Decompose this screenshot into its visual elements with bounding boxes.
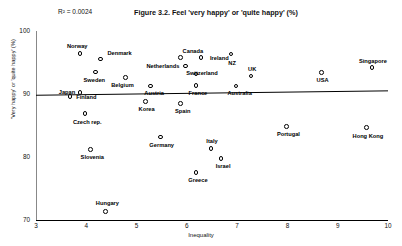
data-point-label: Japan xyxy=(59,89,75,95)
data-point-label: Canada xyxy=(183,48,204,54)
x-tick-label: 10 xyxy=(378,222,398,229)
x-tick-label: 3 xyxy=(26,222,46,229)
data-point-label: Australia xyxy=(227,90,251,96)
data-point-label: Greece xyxy=(188,177,207,183)
data-point-marker xyxy=(143,99,148,104)
data-point-marker xyxy=(209,146,214,151)
x-tick-label: 6 xyxy=(177,222,197,229)
data-point-marker xyxy=(148,84,153,89)
data-point-label: Korea xyxy=(139,106,155,112)
trendline xyxy=(0,0,402,246)
scatter-plot-area: 708090100 345678910 NorwayDenmarkCanadaI… xyxy=(0,0,402,246)
data-point-marker xyxy=(319,70,324,75)
data-point-marker xyxy=(178,55,183,60)
data-point-label: Austria xyxy=(144,90,164,96)
data-point-label: Italy xyxy=(206,138,217,144)
data-point-label: Singapore xyxy=(359,58,387,64)
x-tick-label: 4 xyxy=(76,222,96,229)
data-point-marker xyxy=(178,101,183,106)
data-point-label: Hong Kong xyxy=(353,133,384,139)
data-point-label: Spain xyxy=(175,108,191,114)
data-point-label: Czech rep. xyxy=(73,119,102,125)
data-point-label: Ireland xyxy=(210,55,229,61)
data-point-marker xyxy=(78,51,83,56)
data-point-marker xyxy=(199,55,204,60)
data-point-marker xyxy=(219,156,224,161)
data-point-label: Israel xyxy=(216,163,231,169)
data-point-marker xyxy=(123,75,128,80)
data-point-marker xyxy=(364,125,369,130)
y-axis-label: 'Very happy' or 'quite happy' (%) xyxy=(10,14,16,144)
x-axis-label: Inequality xyxy=(0,232,402,238)
data-point-marker xyxy=(194,83,199,88)
data-point-marker xyxy=(103,209,108,214)
x-tick-label: 5 xyxy=(127,222,147,229)
data-point-label: Hungary xyxy=(96,200,119,206)
data-point-label: Switzerland xyxy=(186,70,218,76)
data-point-label: USA xyxy=(317,77,329,83)
data-point-label: Portugal xyxy=(277,131,300,137)
x-tick-label: 9 xyxy=(328,222,348,229)
data-point-marker xyxy=(93,70,98,75)
data-point-label: UK xyxy=(248,66,256,72)
data-point-label: Belgium xyxy=(111,82,133,88)
data-point-label: Norway xyxy=(67,43,88,49)
data-point-marker xyxy=(88,147,93,152)
data-point-marker xyxy=(194,170,199,175)
data-point-marker xyxy=(158,135,163,140)
data-point-label: Denmark xyxy=(107,50,131,56)
data-point-label: NZ xyxy=(228,60,236,66)
data-point-marker xyxy=(284,124,289,129)
x-tick-label: 7 xyxy=(227,222,247,229)
data-point-marker xyxy=(370,65,375,70)
data-point-marker xyxy=(98,57,103,62)
data-point-label: Sweden xyxy=(84,77,106,83)
data-point-label: Finland xyxy=(76,94,96,100)
data-point-marker xyxy=(183,64,188,69)
x-tick-label: 8 xyxy=(277,222,297,229)
data-point-label: Slovenia xyxy=(81,154,104,160)
data-point-label: Netherlands xyxy=(146,63,179,69)
data-point-label: Germany xyxy=(149,142,174,148)
data-point-label: France xyxy=(189,90,208,96)
y-tick-label: 80 xyxy=(10,153,30,160)
